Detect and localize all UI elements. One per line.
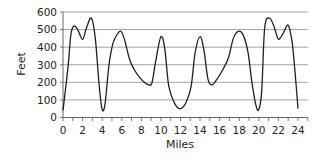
x-tick-label: 8: [138, 124, 145, 136]
y-axis-tick-labels: 0100200300400500600: [37, 6, 57, 124]
x-tick-label: 6: [118, 124, 125, 136]
y-tick-label: 500: [37, 23, 57, 35]
x-axis-title: Miles: [166, 138, 194, 151]
y-axis-title: Feet: [15, 52, 28, 76]
x-tick-label: 10: [154, 124, 167, 136]
x-tick-label: 20: [252, 124, 265, 136]
y-tick-label: 0: [50, 111, 57, 123]
y-tick-label: 600: [37, 6, 57, 18]
y-tick-label: 400: [37, 41, 57, 53]
x-tick-label: 14: [193, 124, 207, 136]
elevation-chart: 0100200300400500600 02468101214161820222…: [0, 0, 325, 164]
y-tick-label: 200: [37, 76, 57, 88]
x-tick-label: 24: [291, 124, 305, 136]
x-tick-label: 0: [60, 124, 67, 136]
x-axis-tick-labels: 024681012141618202224: [60, 124, 305, 136]
x-tick-label: 12: [174, 124, 187, 136]
x-tick-label: 16: [213, 124, 227, 136]
y-tick-label: 100: [37, 94, 57, 106]
x-tick-label: 4: [99, 124, 106, 136]
x-tick-label: 18: [233, 124, 246, 136]
x-tick-label: 22: [272, 124, 285, 136]
x-tick-label: 2: [79, 124, 86, 136]
y-tick-label: 300: [37, 59, 57, 71]
